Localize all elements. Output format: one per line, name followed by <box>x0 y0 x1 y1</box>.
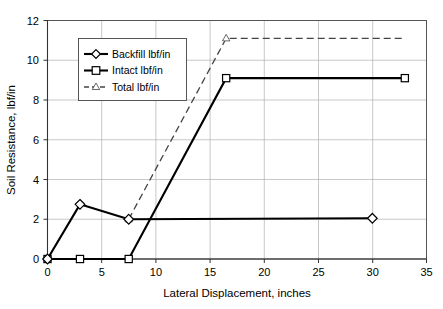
x-tick-label-35: 35 <box>420 266 432 278</box>
y-tick-label-2: 2 <box>33 213 39 225</box>
series-intact-marker-square <box>125 255 132 262</box>
y-tick-label-8: 8 <box>33 94 39 106</box>
x-tick-label-5: 5 <box>99 266 105 278</box>
y-tick-label-6: 6 <box>33 134 39 146</box>
x-axis-title: Lateral Displacement, inches <box>163 287 311 299</box>
legend-label-intact: Intact lbf/in <box>112 64 163 76</box>
y-axis-title: Soil Resistance, lbf/in <box>5 85 17 195</box>
series-intact-marker-square <box>401 75 408 82</box>
legend-label-total: Total lbf/in <box>112 81 159 93</box>
series-intact-marker-square <box>76 255 83 262</box>
x-tick-label-30: 30 <box>367 266 379 278</box>
x-tick-label-15: 15 <box>204 266 216 278</box>
legend-marker-square-icon <box>92 67 100 75</box>
x-tick-label-20: 20 <box>258 266 270 278</box>
chart-legend: Backfill lbf/in Intact lbf/in Total lbf/… <box>79 39 187 101</box>
soil-resistance-line-chart: 12 10 8 6 4 2 0 0 5 10 15 20 25 30 35 La… <box>0 0 443 309</box>
x-tick-label-10: 10 <box>150 266 162 278</box>
y-tick-label-0: 0 <box>33 253 39 265</box>
series-intact-marker-square <box>223 75 230 82</box>
x-tick-label-0: 0 <box>44 266 50 278</box>
y-axis-tick-labels: 12 10 8 6 4 2 0 <box>27 15 39 266</box>
x-tick-label-25: 25 <box>312 266 324 278</box>
legend-label-backfill: Backfill lbf/in <box>112 48 171 60</box>
y-tick-label-10: 10 <box>27 54 39 66</box>
y-axis-ticks <box>44 21 48 260</box>
y-tick-label-4: 4 <box>33 174 39 186</box>
x-axis-tick-labels: 0 5 10 15 20 25 30 35 <box>44 266 432 278</box>
y-tick-label-12: 12 <box>27 15 39 27</box>
chart-container: 12 10 8 6 4 2 0 0 5 10 15 20 25 30 35 La… <box>0 0 443 309</box>
